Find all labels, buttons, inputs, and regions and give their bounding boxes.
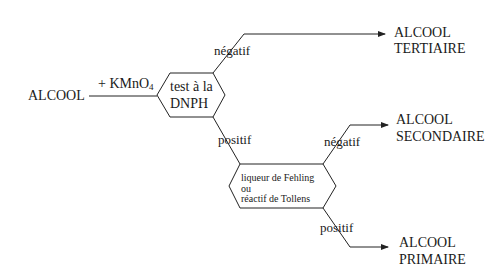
test1-positive-label: positif	[218, 133, 251, 147]
reagent-label: + KMnO4	[98, 76, 154, 93]
result-tertiary-line2: TERTIAIRE	[394, 41, 465, 56]
reagent-subscript: 4	[149, 82, 154, 92]
test2-positive-label: positif	[320, 221, 353, 235]
test1-line2: DNPH	[170, 96, 208, 111]
test2-negative-label: négatif	[324, 135, 360, 149]
test1-line1: test à la	[170, 79, 213, 94]
result-secondary-line2: SECONDAIRE	[396, 129, 485, 144]
test2-line3: réactif de Tollens	[241, 194, 310, 205]
test1-negative-label: négatif	[214, 44, 250, 58]
result-primary-line1: ALCOOL	[399, 235, 456, 250]
result-tertiary-line1: ALCOOL	[394, 25, 451, 40]
result-secondary-line1: ALCOOL	[396, 112, 453, 127]
reagent-text: + KMnO	[98, 76, 149, 91]
start-label: ALCOOL	[28, 88, 85, 103]
result-primary-line2: PRIMAIRE	[399, 252, 466, 267]
test2-line1: liqueur de Fehling	[241, 173, 314, 184]
